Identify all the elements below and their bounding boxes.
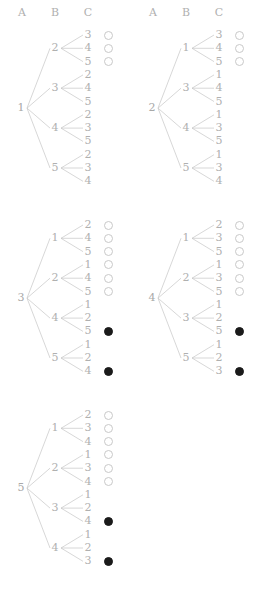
edge-b-c — [61, 75, 83, 88]
node-c: 2 — [81, 219, 95, 230]
node-c: 2 — [81, 69, 95, 80]
node-b: 2 — [179, 272, 193, 283]
edge-a-b — [158, 108, 181, 168]
edge-b-c — [61, 48, 83, 61]
edge-b-c — [61, 305, 83, 318]
edge-a-b — [158, 48, 181, 108]
node-b: 5 — [48, 162, 62, 173]
edge-b-c — [192, 88, 214, 101]
marker-filled-circle — [104, 557, 113, 566]
tree-edges — [131, 30, 262, 204]
marker-filled-circle — [104, 367, 113, 376]
edge-b-c — [61, 168, 83, 181]
node-c: 5 — [81, 246, 95, 257]
node-c: 2 — [81, 109, 95, 120]
node-c: 3 — [212, 272, 226, 283]
column-header-c-5: C — [211, 7, 227, 18]
edge-a-b — [27, 488, 50, 508]
node-b: 4 — [48, 122, 62, 133]
node-b: 5 — [179, 162, 193, 173]
node-c: 4 — [212, 42, 226, 53]
edge-b-c — [192, 358, 214, 371]
node-c: 4 — [81, 436, 95, 447]
node-c: 3 — [212, 365, 226, 376]
node-c: 1 — [81, 259, 95, 270]
node-c: 3 — [212, 232, 226, 243]
node-c: 3 — [212, 29, 226, 40]
edge-b-c — [61, 115, 83, 128]
node-c: 5 — [212, 56, 226, 67]
node-b: 1 — [48, 232, 62, 243]
marker-open-circle — [235, 31, 244, 40]
node-c: 3 — [81, 462, 95, 473]
edge-a-b — [27, 298, 50, 358]
node-a: 3 — [14, 292, 28, 303]
edge-b-c — [192, 238, 214, 251]
node-c: 5 — [81, 56, 95, 67]
node-c: 1 — [212, 299, 226, 310]
node-c: 1 — [81, 449, 95, 460]
edge-b-c — [61, 358, 83, 371]
node-c: 5 — [81, 286, 95, 297]
edge-a-b — [27, 108, 50, 168]
marker-open-circle — [104, 44, 113, 53]
node-b: 4 — [48, 312, 62, 323]
edge-a-b — [27, 298, 50, 318]
node-b: 3 — [48, 502, 62, 513]
edge-b-c — [192, 278, 214, 291]
edge-a-b — [158, 108, 181, 128]
node-c: 2 — [212, 352, 226, 363]
edge-a-b — [158, 88, 181, 108]
node-c: 4 — [81, 476, 95, 487]
node-c: 1 — [81, 299, 95, 310]
edge-b-c — [61, 35, 83, 48]
edge-b-c — [192, 155, 214, 168]
marker-open-circle — [104, 477, 113, 486]
node-c: 5 — [212, 246, 226, 257]
edge-b-c — [192, 345, 214, 358]
edge-b-c — [61, 495, 83, 508]
node-c: 4 — [81, 272, 95, 283]
column-header-c-2: C — [80, 7, 96, 18]
node-c: 3 — [81, 122, 95, 133]
edge-b-c — [61, 278, 83, 291]
node-c: 3 — [81, 422, 95, 433]
marker-open-circle — [104, 411, 113, 420]
node-c: 5 — [81, 96, 95, 107]
node-c: 3 — [212, 162, 226, 173]
edge-b-c — [61, 535, 83, 548]
edge-b-c — [61, 88, 83, 101]
node-c: 1 — [212, 339, 226, 350]
marker-filled-circle — [104, 327, 113, 336]
marker-open-circle — [104, 221, 113, 230]
edge-b-c — [61, 265, 83, 278]
node-c: 1 — [212, 149, 226, 160]
node-c: 5 — [81, 325, 95, 336]
node-c: 4 — [81, 42, 95, 53]
edge-b-c — [192, 225, 214, 238]
edge-b-c — [192, 305, 214, 318]
edge-a-b — [158, 298, 181, 358]
node-b: 4 — [179, 122, 193, 133]
node-c: 1 — [81, 339, 95, 350]
node-c: 3 — [81, 162, 95, 173]
node-b: 3 — [179, 312, 193, 323]
marker-filled-circle — [235, 367, 244, 376]
marker-open-circle — [104, 287, 113, 296]
edge-a-b — [27, 428, 50, 488]
edge-b-c — [61, 128, 83, 141]
edge-b-c — [192, 115, 214, 128]
edge-b-c — [192, 318, 214, 331]
node-c: 4 — [81, 232, 95, 243]
node-c: 4 — [212, 175, 226, 186]
figure-canvas: ABCABC1234532454235523421345314541355134… — [0, 0, 263, 592]
node-c: 3 — [81, 29, 95, 40]
node-a: 2 — [145, 102, 159, 113]
node-b: 1 — [179, 232, 193, 243]
column-header-b-1: B — [47, 7, 63, 18]
node-c: 1 — [212, 259, 226, 270]
marker-open-circle — [104, 424, 113, 433]
edge-b-c — [61, 455, 83, 468]
edge-b-c — [61, 225, 83, 238]
marker-open-circle — [104, 274, 113, 283]
